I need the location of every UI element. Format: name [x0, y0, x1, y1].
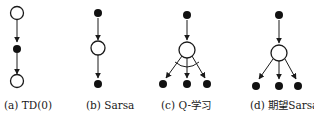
- panel-label-a: (a) TD(0): [4, 99, 52, 111]
- panel-td0: (a) TD(0): [4, 7, 52, 112]
- action-node-icon: [159, 80, 167, 88]
- action-node-icon: [275, 11, 283, 19]
- state-node-icon: [271, 45, 287, 61]
- backup-diagrams-figure: (a) TD(0) (b) Sarsa (c) Q-学习 (d) 期望Sar: [0, 0, 314, 120]
- panel-label-c: (c) Q-学习: [161, 99, 211, 111]
- state-node-icon: [11, 7, 24, 20]
- panel-q-learning: (c) Q-学习: [159, 11, 211, 111]
- action-node-icon: [94, 9, 102, 17]
- arrow-icon: [259, 59, 273, 79]
- state-node-icon: [11, 75, 24, 88]
- arrow-icon: [192, 56, 205, 78]
- state-node-icon: [179, 42, 195, 58]
- action-node-icon: [13, 45, 21, 53]
- panel-expected-sarsa: (d) 期望Sarsa: [250, 11, 314, 111]
- action-node-icon: [275, 82, 283, 90]
- action-node-icon: [294, 82, 302, 90]
- state-node-icon: [91, 41, 105, 55]
- action-node-icon: [252, 82, 260, 90]
- action-node-icon: [94, 80, 102, 88]
- action-node-icon: [203, 80, 211, 88]
- action-node-icon: [183, 11, 191, 19]
- panel-label-b: (b) Sarsa: [86, 99, 134, 111]
- action-node-icon: [183, 80, 191, 88]
- panel-sarsa: (b) Sarsa: [86, 9, 134, 111]
- panel-label-d: (d) 期望Sarsa: [250, 99, 314, 111]
- arrow-icon: [166, 56, 182, 78]
- arrow-icon: [285, 59, 296, 79]
